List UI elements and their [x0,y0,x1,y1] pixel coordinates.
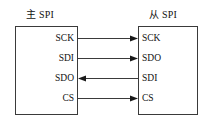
slave-pin-label-sck: SCK [142,33,160,44]
slave-pin-label-sdi: SDI [142,73,157,84]
connection-wire-cs [78,95,138,101]
slave-pin-label-sdo: SDO [142,53,161,64]
master-chip-title: 主 SPI [26,9,54,21]
slave-chip-title: 从 SPI [149,9,177,21]
master-pin-label-sck: SCK [18,33,74,44]
master-pin-label-sdi: SDI [18,53,74,64]
connection-wire-sdi-sdo [78,55,138,61]
arrowhead-left-icon-sdo-sdi [78,75,86,81]
arrowhead-right-icon-sdi-sdo [130,55,138,61]
slave-pin-label-cs: CS [142,93,154,104]
spi-connection-diagram: 主 SPI 从 SPI SCK SDI SDO CS SCK SDO SDI C… [0,0,210,131]
connection-wire-sck [78,35,138,41]
master-pin-label-sdo: SDO [18,73,74,84]
master-pin-label-cs: CS [18,93,74,104]
arrowhead-right-icon-sck [130,35,138,41]
arrowhead-right-icon-cs [130,95,138,101]
connection-wire-sdo-sdi [78,75,138,81]
